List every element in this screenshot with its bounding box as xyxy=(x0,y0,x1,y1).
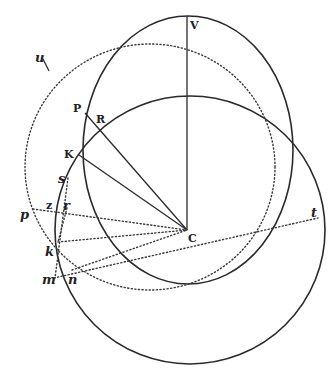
label-k: k xyxy=(45,244,54,259)
label-p: p xyxy=(20,207,29,222)
label-n: n xyxy=(68,272,77,287)
label-C: C xyxy=(188,232,197,245)
dotted-ellipse xyxy=(25,44,275,290)
label-r: r xyxy=(63,198,71,213)
label-K: K xyxy=(64,148,74,161)
line-P-C xyxy=(85,113,187,230)
label-V: V xyxy=(189,19,199,32)
label-u: u xyxy=(35,50,44,65)
label-P: P xyxy=(73,102,81,115)
label-t: t xyxy=(311,205,317,220)
label-z: z xyxy=(46,199,52,212)
label-s: s xyxy=(58,171,66,186)
line-s-m xyxy=(55,178,68,278)
line-K-C xyxy=(79,155,187,230)
line-m-t xyxy=(54,218,318,278)
geometry-diagram: V P R K s u z r p k m n C t xyxy=(0,0,333,379)
lower-circle xyxy=(55,96,325,364)
label-m: m xyxy=(42,272,56,287)
label-R: R xyxy=(96,113,106,126)
